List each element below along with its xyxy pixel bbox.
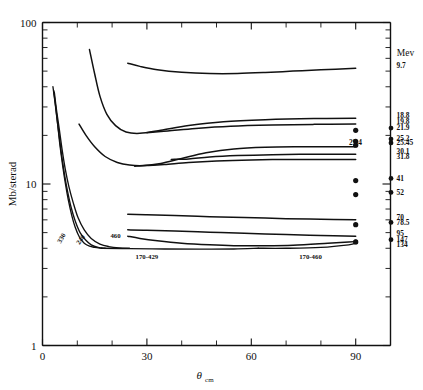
data-curves <box>53 50 356 250</box>
curve-170-429 <box>102 248 259 249</box>
legend-label-52: 52 <box>397 188 405 197</box>
curve-9.7 <box>128 63 356 74</box>
legend-label-41: 41 <box>397 174 405 183</box>
x-axis-tick-label: 90 <box>350 350 362 362</box>
inline-label-170-460: 170-460 <box>299 253 322 260</box>
legend-label-31.8: 31.8 <box>397 152 410 161</box>
y-axis-title: Mb/sterad <box>6 161 18 206</box>
legend-marker-78.5 <box>389 220 394 225</box>
curve-31.8 <box>135 159 356 166</box>
x-axis-tick-label: 30 <box>141 350 153 362</box>
legend-marker-147 <box>389 237 394 242</box>
chart-figure: 330240460170-429170-460 Mev9.718.819.821… <box>0 0 423 390</box>
chart-canvas: 330240460170-429170-460 Mev9.718.819.821… <box>0 0 423 390</box>
legend-marker-52 <box>389 190 394 195</box>
curve-95 <box>128 230 356 236</box>
curve-18.8 <box>89 50 355 134</box>
inline-label-460: 460 <box>110 232 121 239</box>
curve-70 <box>128 214 356 220</box>
y-axis-tick-label: 10 <box>26 178 38 190</box>
y-axis-tick-label: 1 <box>31 340 37 352</box>
legend-marker-41 <box>389 176 394 181</box>
side-annotation-29.4: 29.4 <box>349 138 362 147</box>
x-axis-tick-label: 60 <box>246 350 258 362</box>
legend: Mev9.718.819.821.925.225.4530.131.841527… <box>349 48 414 249</box>
x-axis-tick-label: 0 <box>40 350 46 362</box>
data-point-21.9 <box>353 128 358 133</box>
data-point-134 <box>353 240 358 245</box>
legend-label-25.45: 25.45 <box>397 138 414 147</box>
inline-label-170-429: 170-429 <box>136 253 159 260</box>
axis-labels: 1101000306090Mb/steradθcm <box>6 17 362 384</box>
legend-marker-25.45 <box>389 141 394 146</box>
y-axis-tick-label: 100 <box>20 17 37 29</box>
data-point-41 <box>353 178 358 183</box>
data-point-78.5 <box>353 222 358 227</box>
curve-19.8 <box>147 124 356 133</box>
legend-label-9.7: 9.7 <box>397 61 407 70</box>
legend-label-21.9: 21.9 <box>397 123 410 132</box>
legend-title: Mev <box>397 48 415 58</box>
inline-label-330: 330 <box>56 231 67 244</box>
x-axis-title: θcm <box>196 369 214 384</box>
legend-label-78.5: 78.5 <box>397 218 410 227</box>
curve-460 <box>54 92 129 248</box>
data-point-52 <box>353 192 358 197</box>
x-axis-title-subscript: cm <box>205 376 214 384</box>
legend-label-134: 134 <box>397 240 408 249</box>
curve-330 <box>54 90 102 248</box>
x-axis-title-symbol: θ <box>196 369 202 381</box>
curve-134 <box>128 236 356 246</box>
legend-marker-21.9 <box>389 126 394 131</box>
curve-240 <box>53 87 105 249</box>
